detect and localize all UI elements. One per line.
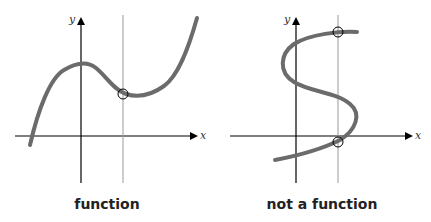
- not-function-graph: [230, 15, 411, 183]
- x-axis-label: x: [415, 129, 421, 142]
- function-curve: [30, 18, 197, 145]
- caption-function: function: [7, 196, 207, 212]
- y-axis-label: y: [69, 13, 75, 26]
- function-diagrams: [0, 0, 431, 222]
- x-axis-label: x: [200, 129, 206, 142]
- y-axis-label: y: [284, 13, 290, 26]
- caption-not-a-function: not a function: [222, 196, 422, 212]
- s-curve: [275, 32, 357, 160]
- function-graph: [15, 15, 197, 183]
